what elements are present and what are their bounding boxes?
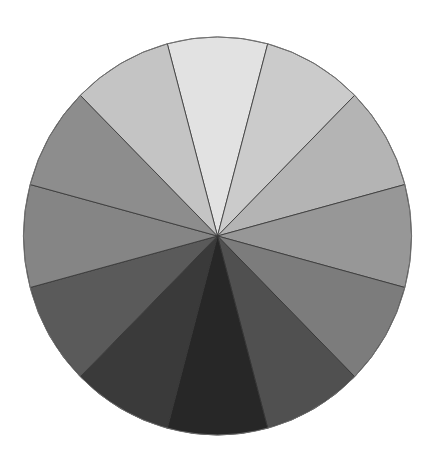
- pie-slices: [24, 37, 412, 435]
- pie-chart: [0, 0, 437, 455]
